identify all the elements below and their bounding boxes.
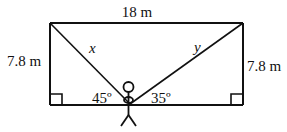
figure-head bbox=[124, 82, 134, 92]
label-right-height: 7.8 m bbox=[247, 58, 282, 74]
label-left-height: 7.8 m bbox=[7, 53, 42, 69]
sight-line-x bbox=[50, 23, 130, 104]
label-x: x bbox=[88, 40, 96, 56]
figure-right-leg bbox=[129, 115, 137, 126]
label-right-angle: 35º bbox=[151, 90, 171, 106]
label-top-width: 18 m bbox=[122, 4, 153, 20]
right-angle-marker-left bbox=[50, 94, 62, 105]
right-angle-marker-right bbox=[231, 94, 243, 105]
right-angle-markers bbox=[50, 94, 243, 105]
label-left-angle: 45º bbox=[92, 90, 112, 106]
label-y: y bbox=[192, 39, 201, 55]
sight-lines bbox=[50, 23, 243, 104]
sight-line-y bbox=[130, 23, 243, 104]
figure-left-leg bbox=[121, 115, 129, 126]
diagram-svg: 18 m 7.8 m 7.8 m x y 45º 35º bbox=[0, 0, 287, 132]
diagram-canvas: 18 m 7.8 m 7.8 m x y 45º 35º bbox=[0, 0, 287, 132]
